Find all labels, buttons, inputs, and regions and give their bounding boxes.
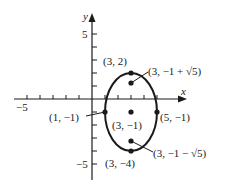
y-axis-label: y xyxy=(82,10,88,22)
leader-left-covertex xyxy=(86,112,105,116)
point-center xyxy=(128,109,133,114)
label-left-covertex: (1, −1) xyxy=(49,111,79,124)
label-lower-focus: (3, −1 − √5) xyxy=(153,147,207,160)
point-top-vertex xyxy=(128,70,133,75)
y-axis xyxy=(89,13,98,180)
x-axis xyxy=(14,95,187,103)
label-bottom-vertex: (3, −4) xyxy=(105,157,135,170)
label-upper-focus: (3, −1 + √5) xyxy=(148,65,202,78)
y-axis-arrow-icon xyxy=(89,13,96,22)
x-tick-label-neg5: −5 xyxy=(16,101,28,113)
label-top-vertex: (3, 2) xyxy=(103,55,127,68)
ellipse-diagram: y x 5 −5 −5 (3, 2) (3, −1 + √5) (1, −1) … xyxy=(0,0,230,185)
label-right-covertex: (5, −1) xyxy=(160,111,190,124)
label-center: (3, −1) xyxy=(112,119,142,132)
y-tick-label-5: 5 xyxy=(82,28,88,40)
point-right-covertex xyxy=(154,109,159,114)
x-axis-label: x xyxy=(180,85,186,97)
y-tick-label-neg5: −5 xyxy=(76,158,88,170)
point-bottom-vertex xyxy=(128,148,133,153)
